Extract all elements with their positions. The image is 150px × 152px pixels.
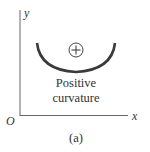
curvature-diagram: y x O Positive curvature (a)	[0, 0, 150, 152]
origin-label: O	[6, 114, 15, 128]
subfigure-label: (a)	[69, 131, 83, 145]
curvature-caption-line1: Positive	[56, 76, 97, 90]
x-axis-label: x	[131, 109, 138, 123]
circled-plus-icon	[69, 43, 83, 57]
y-axis-label: y	[23, 6, 30, 20]
curvature-caption-line2: curvature	[52, 91, 100, 105]
